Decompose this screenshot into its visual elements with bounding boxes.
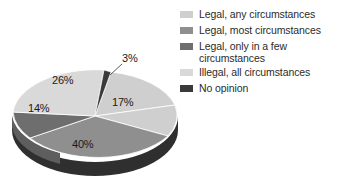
legend-item-no-opinion: No opinion <box>180 82 344 96</box>
legend-swatch-legal-most <box>180 27 193 34</box>
pie-chart-figure: 3% 17% 40% 14% 26% Legal, any circumstan… <box>0 0 344 181</box>
chart-legend: Legal, any circumstances Legal, most cir… <box>180 8 344 98</box>
legend-item-legal-few: Legal, only in a few circumstances <box>180 40 344 64</box>
legend-label-legal-any: Legal, any circumstances <box>199 8 315 20</box>
pie-value-label-legal-few: 14% <box>28 102 49 114</box>
legend-label-legal-most: Legal, most circumstances <box>199 24 321 36</box>
legend-item-legal-most: Legal, most circumstances <box>180 24 344 38</box>
pie-value-label-no-opinion: 3% <box>122 52 138 64</box>
pie-value-label-legal-any: 17% <box>112 96 133 108</box>
legend-item-illegal-all: Illegal, all circumstances <box>180 66 344 80</box>
legend-label-no-opinion: No opinion <box>199 82 248 94</box>
legend-item-legal-any: Legal, any circumstances <box>180 8 344 22</box>
legend-swatch-no-opinion <box>180 85 193 92</box>
pie-chart-graphic: 3% 17% 40% 14% 26% <box>0 42 190 181</box>
legend-swatch-legal-few <box>180 43 193 50</box>
legend-swatch-illegal-all <box>180 69 193 76</box>
pie-value-label-legal-most: 40% <box>72 138 93 150</box>
pie-value-label-illegal-all: 26% <box>52 74 73 86</box>
legend-label-legal-few: Legal, only in a few circumstances <box>199 40 344 64</box>
legend-swatch-legal-any <box>180 11 193 18</box>
legend-label-illegal-all: Illegal, all circumstances <box>199 66 310 78</box>
